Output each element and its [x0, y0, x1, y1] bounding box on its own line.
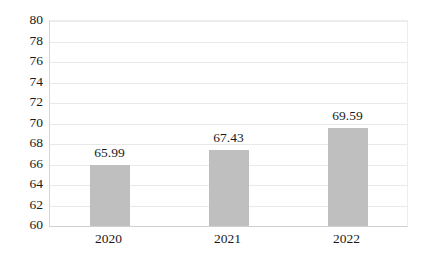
bar[interactable]: [209, 150, 249, 226]
y-axis-tick-label: 78: [0, 34, 43, 48]
x-axis-tick-label: 2021: [214, 231, 241, 247]
y-axis-tick-label: 80: [0, 13, 43, 27]
y-axis-tick-label: 64: [0, 177, 43, 191]
y-axis-tick-label: 74: [0, 75, 43, 89]
x-axis-tick-label: 2022: [333, 231, 360, 247]
y-axis-tick-label: 60: [0, 218, 43, 232]
bar[interactable]: [90, 165, 130, 226]
bar[interactable]: [328, 128, 368, 226]
y-axis-tick-label: 62: [0, 198, 43, 212]
bar-value-label: 67.43: [185, 131, 273, 145]
x-axis-tick-label: 2020: [95, 231, 122, 247]
bar-slot: 69.59: [328, 21, 368, 226]
y-axis: 6062646668707274767880: [0, 20, 43, 227]
y-axis-tick-label: 76: [0, 54, 43, 68]
bar-slot: 67.43: [209, 21, 249, 226]
gridline: [50, 226, 407, 227]
bar-value-label: 65.99: [66, 146, 154, 160]
bar-value-label: 69.59: [304, 109, 392, 123]
bar-slot: 65.99: [90, 21, 130, 226]
y-axis-tick-label: 72: [0, 95, 43, 109]
y-axis-tick-label: 66: [0, 157, 43, 171]
y-axis-tick-label: 68: [0, 136, 43, 150]
y-axis-tick-label: 70: [0, 116, 43, 130]
plot-area: 65.9967.4369.59: [49, 20, 408, 227]
bar-chart: 6062646668707274767880 65.9967.4369.59 2…: [0, 0, 426, 266]
x-axis: 202020212022: [49, 231, 408, 251]
